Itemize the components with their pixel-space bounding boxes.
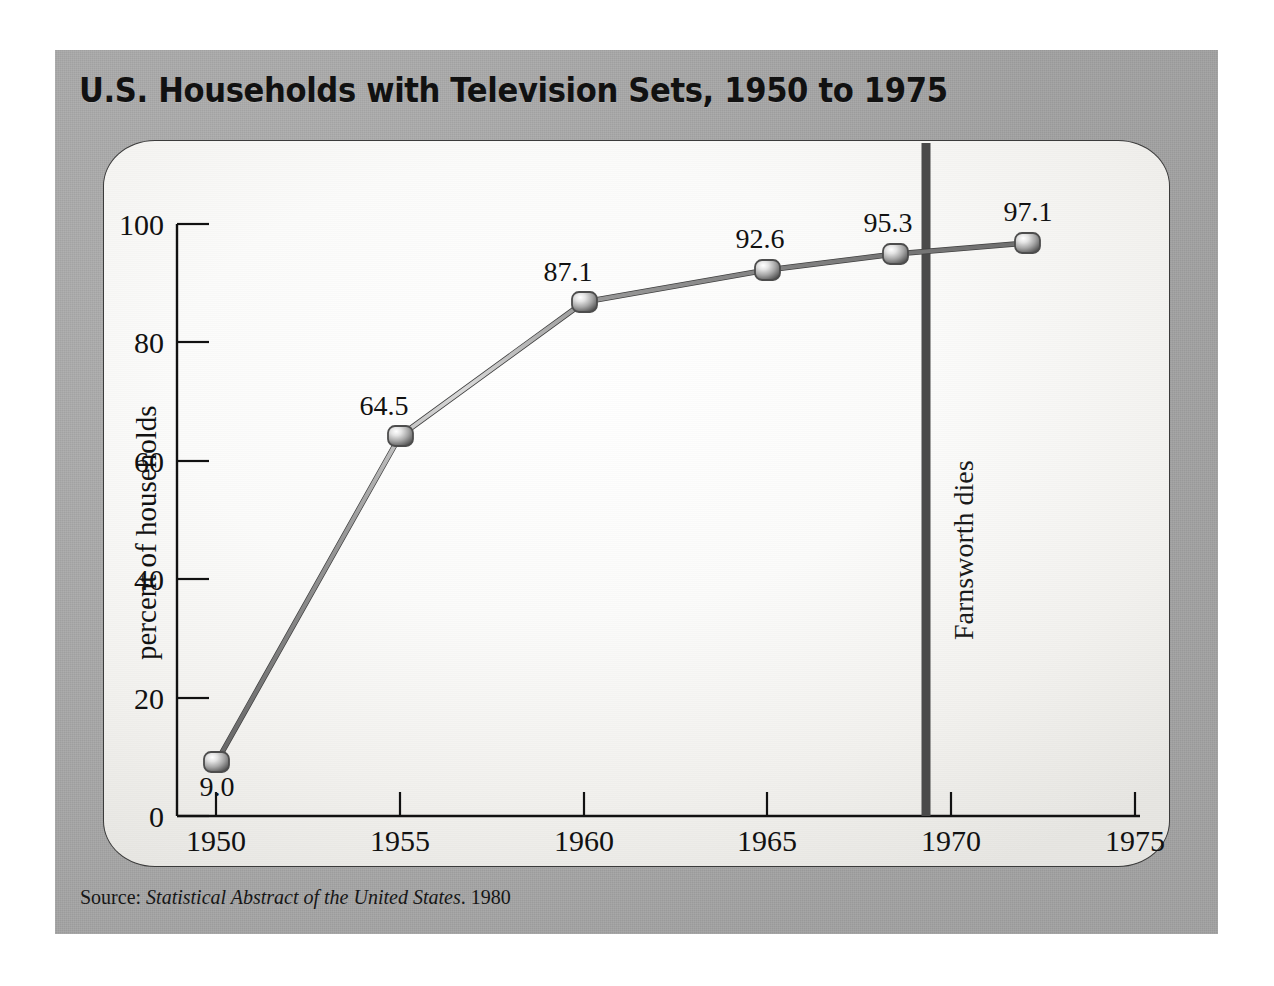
poster-page: U.S. Households with Television Sets, 19…: [0, 0, 1274, 986]
data-label-1970: 95.3: [833, 207, 943, 239]
x-tick-label-1975: 1975: [1075, 824, 1195, 858]
data-label-1950: 9.0: [162, 771, 272, 803]
data-label-1975: 97.1: [973, 196, 1083, 228]
source-year: . 1980: [461, 886, 511, 908]
source-note: Source: Statistical Abstract of the Unit…: [80, 886, 511, 909]
x-tick-label-1965: 1965: [707, 824, 827, 858]
x-tick-label-1955: 1955: [340, 824, 460, 858]
data-label-1960: 87.1: [513, 256, 623, 288]
x-tick-label-1970: 1970: [891, 824, 1011, 858]
data-label-1955: 64.5: [329, 390, 439, 422]
page-title: U.S. Households with Television Sets, 19…: [79, 72, 1083, 110]
x-tick-label-1950: 1950: [156, 824, 276, 858]
data-label-1965: 92.6: [705, 223, 815, 255]
x-tick-label-1960: 1960: [524, 824, 644, 858]
tv-screen-plot-area: [103, 140, 1170, 867]
y-tick-label-100: 100: [94, 208, 164, 242]
annotation-farnsworth-dies: Farnsworth dies: [948, 460, 980, 640]
source-title: Statistical Abstract of the United State…: [146, 886, 461, 908]
source-prefix: Source:: [80, 886, 141, 908]
y-tick-label-0: 0: [94, 800, 164, 834]
y-tick-label-80: 80: [94, 326, 164, 360]
y-tick-label-20: 20: [94, 682, 164, 716]
y-axis-title: percent of households: [130, 406, 163, 661]
